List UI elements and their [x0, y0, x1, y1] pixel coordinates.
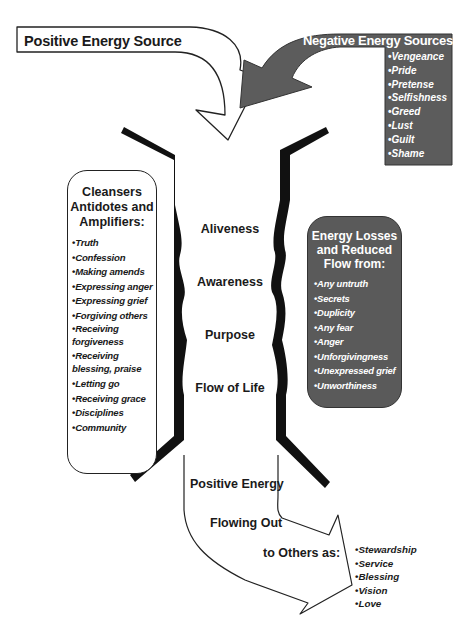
- list-item: Selfishness: [388, 91, 447, 105]
- negative-sources-list: Vengeance Pride Pretense Selfishness Gre…: [388, 50, 447, 160]
- losses-title-line: and Reduced: [317, 243, 392, 257]
- list-item: Any fear: [314, 321, 401, 336]
- channel-label-aliveness: Aliveness: [170, 222, 290, 236]
- positive-energy-source-label: Positive Energy Source: [24, 33, 182, 49]
- list-item: Vision: [355, 584, 417, 598]
- list-item: Community: [72, 421, 156, 436]
- channel-label-flow-of-life: Flow of Life: [170, 381, 290, 395]
- list-item: Greed: [388, 105, 447, 119]
- channel-label-purpose: Purpose: [170, 328, 290, 342]
- list-item: Disciplines: [72, 406, 156, 421]
- list-item: Unworthiness: [314, 379, 401, 394]
- list-item: Expressing anger: [72, 280, 156, 295]
- list-item: Receiving grace: [72, 392, 156, 407]
- list-item: Making amends: [72, 265, 156, 280]
- list-item: Pride: [388, 64, 447, 78]
- losses-title: Energy Losses and Reduced Flow from:: [308, 229, 401, 271]
- list-item: Expressing grief: [72, 294, 156, 309]
- outflow-label-line3: to Others as:: [263, 546, 340, 560]
- negative-sources-title: Negative Energy Sources:: [303, 33, 457, 48]
- list-item: Pretense: [388, 78, 447, 92]
- channel-label-awareness: Awareness: [170, 275, 290, 289]
- list-item: Blessing: [355, 570, 417, 584]
- losses-title-line: Energy Losses: [312, 229, 397, 243]
- list-item: Forgiving others: [72, 309, 156, 324]
- outflow-label-line2: Flowing Out: [210, 516, 282, 530]
- list-item: Secrets: [314, 292, 401, 307]
- list-item: Receiving blessing, praise: [72, 350, 156, 375]
- losses-title-line: Flow from:: [324, 257, 385, 271]
- list-item: Anger: [314, 335, 401, 350]
- list-item: Confession: [72, 251, 156, 266]
- list-item: Vengeance: [388, 50, 447, 64]
- list-item: Duplicity: [314, 306, 401, 321]
- outflow-label-line1: Positive Energy: [190, 477, 284, 491]
- list-item: Lust: [388, 119, 447, 133]
- list-item: Unforgivingness: [314, 350, 401, 365]
- energy-losses-box: Energy Losses and Reduced Flow from: Any…: [307, 216, 402, 408]
- cleansers-title-line: Amplifiers:: [79, 215, 144, 229]
- list-item: Service: [355, 557, 417, 571]
- list-item: Shame: [388, 147, 447, 161]
- list-item: Truth: [72, 236, 156, 251]
- cleansers-list: Truth Confession Making amends Expressin…: [68, 236, 156, 435]
- list-item: Guilt: [388, 133, 447, 147]
- list-item: Unexpressed grief: [314, 364, 401, 379]
- cleansers-title-line: Antidotes and: [70, 200, 153, 214]
- list-item: Any untruth: [314, 277, 401, 292]
- list-item: Love: [355, 597, 417, 611]
- cleansers-title-line: Cleansers: [82, 185, 142, 199]
- cleansers-title: Cleansers Antidotes and Amplifiers:: [68, 185, 156, 230]
- list-item: Receiving forgiveness: [72, 323, 156, 348]
- losses-list: Any untruth Secrets Duplicity Any fear A…: [308, 277, 401, 393]
- cleansers-box: Cleansers Antidotes and Amplifiers: Trut…: [67, 170, 157, 474]
- list-item: Stewardship: [355, 543, 417, 557]
- outflow-list: Stewardship Service Blessing Vision Love: [355, 543, 417, 611]
- list-item: Letting go: [72, 377, 156, 392]
